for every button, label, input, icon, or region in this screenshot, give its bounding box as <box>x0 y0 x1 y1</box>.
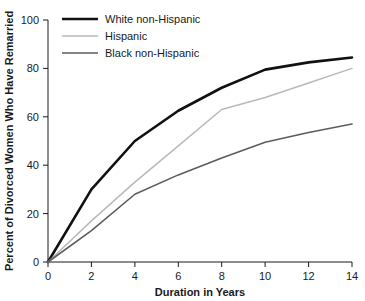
x-tick-label: 12 <box>302 270 314 282</box>
legend-label-0: White non-Hispanic <box>105 13 201 25</box>
series-line-black-non-hispanic <box>48 124 352 262</box>
x-tick-label: 2 <box>88 270 94 282</box>
x-axis-title: Duration in Years <box>155 286 245 298</box>
y-tick-label: 80 <box>27 62 39 74</box>
series-line-hispanic <box>48 68 352 262</box>
x-axis-ticks <box>48 262 352 267</box>
y-axis-tick-labels: 100 80 60 40 20 0 <box>21 14 39 268</box>
y-tick-label: 40 <box>27 159 39 171</box>
x-tick-label: 14 <box>346 270 358 282</box>
y-axis-title: Percent of Divorced Women Who Have Remar… <box>3 11 15 271</box>
legend-label-2: Black non-Hispanic <box>105 47 200 59</box>
series-line-white-non-hispanic <box>48 58 352 262</box>
line-chart: 100 80 60 40 20 0 0 2 4 6 8 10 12 <box>0 0 365 301</box>
chart-container: 100 80 60 40 20 0 0 2 4 6 8 10 12 <box>0 0 365 301</box>
x-tick-label: 0 <box>45 270 51 282</box>
y-tick-label: 60 <box>27 111 39 123</box>
x-tick-label: 10 <box>259 270 271 282</box>
x-tick-label: 6 <box>175 270 181 282</box>
y-tick-label: 100 <box>21 14 39 26</box>
chart-legend: White non-HispanicHispanicBlack non-Hisp… <box>62 13 201 59</box>
y-tick-label: 20 <box>27 208 39 220</box>
legend-label-1: Hispanic <box>105 30 148 42</box>
x-tick-label: 8 <box>219 270 225 282</box>
x-tick-label: 4 <box>132 270 138 282</box>
x-axis-tick-labels: 0 2 4 6 8 10 12 14 <box>45 270 358 282</box>
y-axis-ticks <box>43 20 48 262</box>
data-series-group <box>48 58 352 262</box>
y-tick-label: 0 <box>33 256 39 268</box>
